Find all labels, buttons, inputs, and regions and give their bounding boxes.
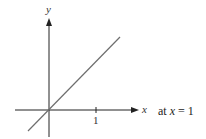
x-axis-label: x bbox=[142, 104, 147, 115]
graph-canvas bbox=[0, 0, 206, 139]
function-line bbox=[28, 37, 120, 131]
y-axis-arrow-icon bbox=[46, 18, 52, 26]
x-tick-label-1: 1 bbox=[93, 115, 99, 126]
annotation-prefix: at bbox=[158, 104, 170, 118]
graph-figure: y x 1 at x = 1 bbox=[0, 0, 206, 139]
y-axis-label: y bbox=[46, 4, 51, 15]
x-axis-arrow-icon bbox=[131, 107, 139, 113]
annotation-at-x-equals-1: at x = 1 bbox=[158, 105, 194, 117]
annotation-suffix: = 1 bbox=[175, 104, 194, 118]
